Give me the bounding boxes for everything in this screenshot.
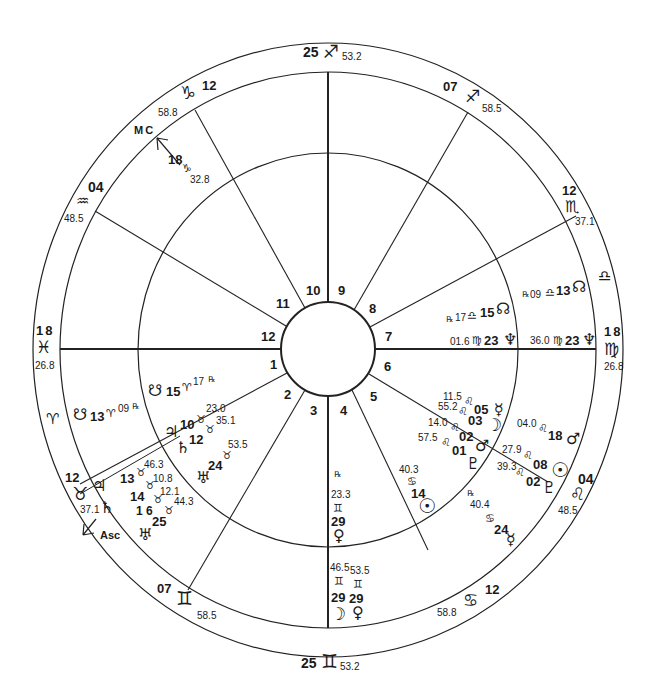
planet-degree: 12 [189,433,203,446]
gemini-icon: ♊ [353,579,363,590]
sagittarius-icon: ♐ [323,43,339,61]
house-number-2: 2 [284,388,291,401]
pluto-icon: ♇ [542,480,556,496]
house-number-12: 12 [261,330,275,343]
cusp-degree: 12 [485,583,499,596]
cusp-minutes: 58.8 [437,608,456,618]
planet-minutes: 53.5 [350,566,369,576]
retrograde-icon: ℞ [446,316,453,324]
cancer-icon: ♋ [463,592,478,609]
planet-minutes: 57.5 [418,433,437,443]
cusp-minutes: 37.1 [575,217,594,227]
leo-icon: ♌ [523,450,533,461]
planet-degree: 01 [452,444,466,457]
planet-minutes: 09 [530,290,541,300]
planet-minutes: 55.2 [438,402,457,412]
mc-degree: 18 [168,153,182,166]
virgo-icon: ♍ [604,341,619,358]
planet-minutes: 27.9 [502,445,521,455]
libra-icon: ♎ [598,269,611,284]
cusp-degree: 04 [88,180,104,194]
retrograde-icon: ℞ [132,403,139,411]
planet-minutes: 36.0 [530,336,549,346]
south-node-icon: ☋ [73,407,87,423]
planet-minutes: 35.1 [216,416,235,426]
sun-icon: ☉ [551,460,569,480]
mc-minutes: 32.8 [190,175,209,185]
mars-icon: ♂ [566,431,580,447]
planet-degree: 14 [130,490,144,503]
planet-minutes: 23.3 [331,490,350,500]
retrograde-icon: ℞ [208,376,215,384]
planet-degree: 23 [565,334,579,347]
planet-minutes: 53.5 [228,440,247,450]
house-number-5: 5 [370,390,377,403]
cusp-degree: 07 [443,80,457,93]
planet-degree: 23 [484,334,498,347]
aries-icon: ♈ [46,412,59,427]
saturn-icon: ♄ [100,500,114,516]
taurus-icon: ♉ [72,485,88,503]
gemini-icon: ♊ [321,652,338,671]
leo-icon: ♌ [538,423,548,434]
planet-minutes: 09 [118,404,129,414]
mercury-icon: ☿ [494,402,504,418]
house-number-4: 4 [340,404,347,417]
mc-label: MC [134,125,155,136]
cusp-degree: 25 [303,45,319,59]
house-number-9: 9 [338,284,345,297]
leo-icon: ♌ [441,437,451,448]
taurus-icon: ♉ [205,424,215,435]
planet-minutes: 23.0 [206,404,225,414]
gemini-icon: ♊ [333,503,343,514]
cusp-minutes: 48.5 [558,506,577,516]
house-number-7: 7 [385,330,392,343]
retrograde-icon: ℞ [522,291,529,299]
planet-minutes: 46.5 [330,563,349,573]
planet-minutes: 11.5 [443,392,462,402]
aries-icon: ♈ [106,408,116,419]
planet-minutes: 01.6 [450,337,469,347]
house-number-6: 6 [384,360,391,373]
cusp-degree: 12 [202,79,216,92]
cusp-minutes: 58.5 [197,611,216,621]
gemini-icon: ♊ [176,589,193,608]
planet-minutes: 44.3 [174,497,193,507]
venus-icon: ♀ [352,605,364,621]
planet-degree: 15 [480,306,494,319]
planet-minutes: 14.0 [428,418,447,428]
uranus-icon: ♅ [138,527,152,543]
leo-icon: ♌ [570,486,585,503]
cusp-minutes: 58.5 [482,104,501,114]
planet-degree: 13 [90,410,104,423]
retrograde-icon: ℞ [334,471,341,479]
house-number-11: 11 [276,297,290,310]
planet-minutes: 17 [193,377,204,387]
capricorn-icon: ♑ [180,84,196,102]
neptune-icon: ♆ [503,332,517,348]
cusp-degree: 18 [604,325,622,338]
sagittarius-icon: ♐ [465,88,480,105]
cusp-minutes: 26.8 [604,362,623,372]
north-node-icon: ☊ [572,279,586,295]
planet-degree: 18 [548,429,562,442]
aries-icon: ♈ [182,382,192,393]
libra-icon: ♎ [545,287,555,298]
sun-icon: ☉ [418,496,436,516]
venus-icon: ♀ [333,528,345,544]
mars-icon: ♂ [475,438,489,454]
planet-minutes: 39.3 [497,462,516,472]
cusp-degree: 18 [36,324,54,337]
north-node-icon: ☊ [496,301,510,317]
leo-icon: ♌ [464,396,474,407]
pisces-icon: ♓ [36,339,51,356]
taurus-icon: ♉ [222,450,232,461]
planet-minutes: 40.4 [470,500,489,510]
asc-degree: 1 6 [136,505,153,517]
asc-arrow-icon [83,519,96,535]
planet-minutes: 10.8 [153,474,172,484]
planet-degree: 02 [526,475,540,488]
scorpio-icon: ♏ [565,199,579,215]
planet-degree: 05 [474,403,488,416]
taurus-icon: ♉ [164,505,174,516]
